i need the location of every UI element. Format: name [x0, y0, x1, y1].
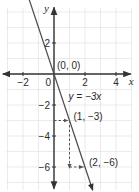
coordinate-plot: −22402−2−4−6xy(0, 0)(1, −3)(2, −6)y = −3… — [0, 0, 139, 192]
x-axis-label: x — [128, 75, 134, 87]
equation-label: y = −3x — [68, 91, 103, 102]
x-tick-label: −2 — [17, 77, 29, 88]
y-tick-label: −4 — [39, 131, 51, 142]
y-tick-label: 2 — [44, 38, 50, 49]
origin-label: 0 — [45, 77, 51, 88]
x-tick-label: 4 — [113, 77, 119, 88]
point-label: (2, −6) — [89, 157, 118, 168]
point-label: (0, 0) — [57, 60, 80, 71]
annotations — [54, 121, 84, 169]
y-axis-label: y — [43, 2, 49, 14]
y-tick-label: −2 — [39, 100, 51, 111]
x-tick-label: 2 — [82, 77, 88, 88]
point-label: (1, −3) — [74, 111, 103, 122]
y-tick-label: −6 — [39, 162, 51, 173]
